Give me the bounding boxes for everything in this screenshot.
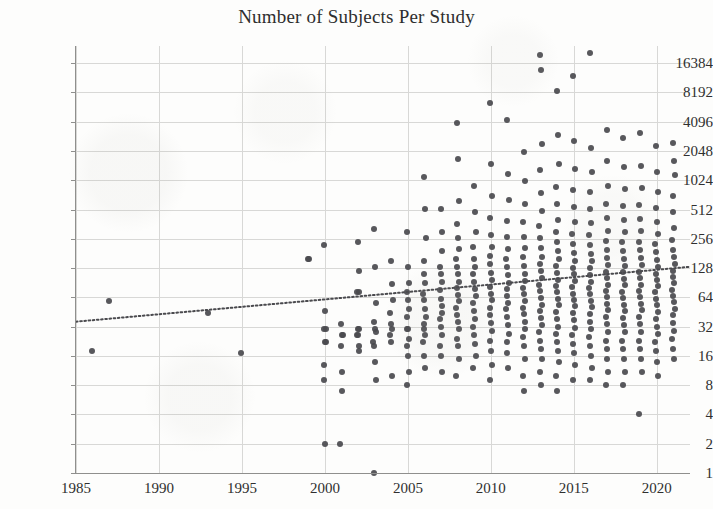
x-tick-label: 2005 (393, 480, 423, 497)
x-tick-label: 1990 (144, 480, 174, 497)
x-tick-label: 1985 (61, 480, 91, 497)
x-tick-label: 2020 (642, 480, 672, 497)
x-tick-label: 1995 (227, 480, 257, 497)
x-tick-label: 2010 (476, 480, 506, 497)
x-tick-label: 2000 (310, 480, 340, 497)
x-axis-labels: 19851990199520002005201020152020 (0, 0, 713, 509)
chart-title: Number of Subjects Per Study (0, 6, 713, 28)
x-tick-label: 2015 (559, 480, 589, 497)
chart-figure: Number of Subjects Per Study 12481632641… (0, 0, 713, 509)
